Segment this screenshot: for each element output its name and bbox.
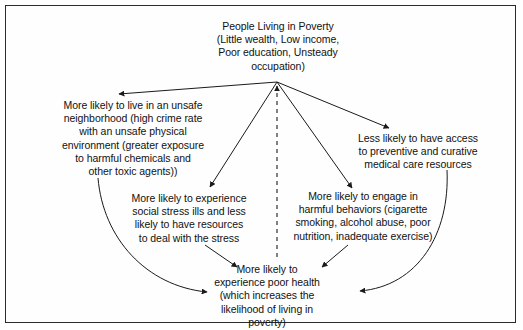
node-less-access-to-medical-care: Less likely to have access to preventive…	[344, 132, 492, 172]
edge-poverty-to-access	[277, 82, 389, 128]
node-poor-health: More likely to experience poor health (w…	[192, 263, 342, 329]
node-people-living-in-poverty: People Living in Poverty (Little wealth,…	[203, 20, 353, 73]
node-social-stress-ills: More likely to experience social stress …	[114, 192, 264, 245]
node-unsafe-neighborhood: More likely to live in an unsafe neighbo…	[42, 99, 224, 178]
edge-poverty-to-neighborhood	[119, 82, 277, 94]
node-harmful-behaviors: More likely to engage in harmful behavio…	[283, 190, 443, 243]
diagram-frame: People Living in Poverty (Little wealth,…	[5, 5, 516, 323]
edge-poverty-to-behaviors	[277, 82, 352, 188]
